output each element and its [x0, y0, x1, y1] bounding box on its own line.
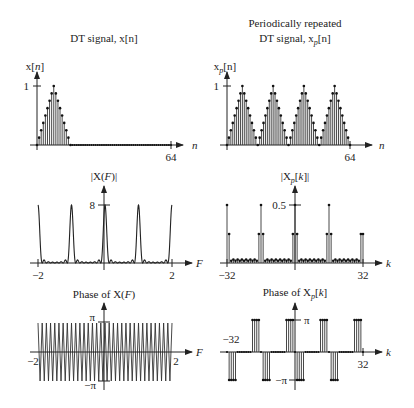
y-tick-label: 8	[90, 199, 96, 211]
x-tick-label: 2	[173, 355, 179, 367]
x-tick-label: −32	[222, 333, 239, 345]
panel-dtft-magnitude: |X(F)| 8 −2 2 F	[30, 170, 203, 281]
figure: DT signal, x[n] x[n] 1 64 n Periodically…	[0, 0, 414, 408]
x-axis-label: n	[192, 139, 198, 151]
panel-title: |Xp[k]|	[281, 170, 310, 185]
panel-title: |X(F)|	[91, 170, 117, 183]
y-tick-label: 1	[214, 80, 220, 92]
x-tick-label: 64	[166, 151, 178, 163]
x-tick-label: 32	[358, 358, 369, 370]
panel-xp-n: Periodically repeated DT signal, xp[n] x…	[214, 17, 386, 163]
x-tick-label: 2	[169, 269, 175, 281]
y-tick-label: −π	[275, 374, 287, 386]
x-axis-label: k	[386, 346, 392, 358]
panel-title: Phase of Xp[k]	[263, 286, 328, 301]
y-axis-label: xp[n]	[214, 60, 236, 75]
panel-x-n: DT signal, x[n] x[n] 1 64 n	[24, 32, 199, 163]
y-tick-label: π	[304, 314, 310, 326]
panel-dft-phase: Phase of Xp[k] π −π −32 32 k	[220, 286, 392, 390]
y-tick-label: π	[89, 311, 95, 323]
x-tick-label: 32	[358, 269, 369, 281]
x-tick-label: −2	[27, 355, 39, 367]
x-axis-label: k	[386, 257, 392, 269]
x-tick-label: −2	[32, 269, 44, 281]
x-axis-label: n	[379, 139, 385, 151]
panel-title-line-2: DT signal, xp[n]	[259, 32, 330, 47]
y-axis-label: x[n]	[26, 60, 44, 72]
x-axis-label: F	[195, 346, 203, 358]
stem-series	[226, 85, 352, 147]
panel-title: Phase of X(F)	[73, 288, 136, 301]
y-tick-label: 0.5	[272, 199, 286, 211]
stem-series	[226, 204, 365, 263]
panel-dft-magnitude: |Xp[k]| 0.5 −32 32 k	[218, 170, 392, 281]
y-tick-label: 1	[24, 80, 30, 92]
x-axis-label: F	[195, 257, 203, 269]
panel-title-line-1: Periodically repeated	[248, 17, 342, 29]
stem-series	[36, 85, 172, 147]
panel-title: DT signal, x[n]	[70, 32, 137, 44]
x-tick-label: −32	[218, 269, 235, 281]
magnitude-curve	[38, 205, 172, 263]
x-tick-label: 64	[345, 151, 357, 163]
panel-dtft-phase: Phase of X(F) π −π −2 2 F	[27, 288, 203, 391]
y-tick-label: −π	[84, 379, 96, 391]
